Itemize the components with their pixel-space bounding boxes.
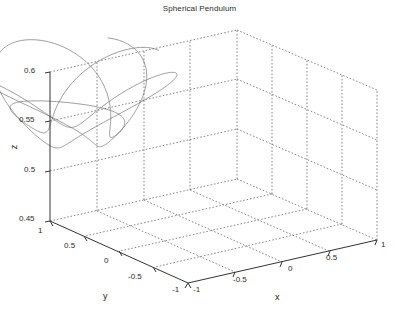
matlab-figure-window: Spherical Pendulum bbox=[0, 0, 399, 324]
x-tick-label-3: 0.5 bbox=[326, 253, 337, 262]
x-tick-label-0: -1 bbox=[193, 285, 200, 294]
z-tick-label-2: 0.55 bbox=[19, 115, 35, 124]
y-tick-label-3: -0.5 bbox=[128, 272, 142, 281]
x-tick-label-4: 1 bbox=[381, 240, 385, 249]
y-tick-label-2: 0 bbox=[104, 256, 108, 265]
y-axis-label: y bbox=[103, 291, 108, 301]
y-tick-label-1: 0.5 bbox=[64, 241, 75, 250]
x-tick-label-2: 0 bbox=[288, 264, 292, 273]
plot-canvas bbox=[0, 0, 399, 324]
z-axis-label: z bbox=[9, 145, 19, 150]
axis-lines bbox=[50, 72, 377, 283]
z-tick-label-0: 0.45 bbox=[19, 214, 35, 223]
grid-walls bbox=[50, 30, 377, 272]
z-tick-label-3: 0.6 bbox=[24, 66, 35, 75]
y-tick-label-4: -1 bbox=[172, 285, 179, 294]
pendulum-trajectory bbox=[0, 38, 177, 148]
x-axis-label: x bbox=[275, 292, 280, 302]
x-tick-label-1: -0.5 bbox=[233, 275, 247, 284]
z-tick-label-1: 0.5 bbox=[24, 165, 35, 174]
y-tick-label-0: 1 bbox=[38, 226, 42, 235]
